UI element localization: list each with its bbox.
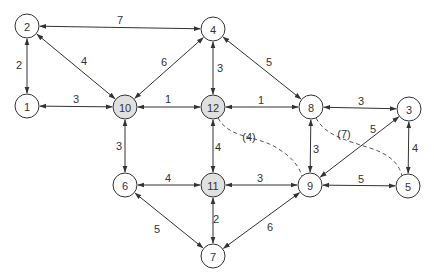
edge-weight-label: 5 (266, 56, 272, 68)
edge-weight-label: 7 (117, 14, 123, 26)
node-label: 7 (210, 251, 216, 263)
node-label: 5 (405, 181, 411, 193)
dashed-edge-weight-label: (7) (337, 128, 350, 140)
node-6: 6 (113, 173, 137, 197)
node-label: 3 (406, 104, 412, 116)
edge-weight-label: 3 (73, 93, 79, 105)
edge-9-7 (223, 193, 299, 249)
node-9: 9 (298, 173, 322, 197)
node-5: 5 (396, 174, 420, 198)
edge-2-4 (40, 26, 200, 29)
edge-weight-label: 5 (358, 173, 364, 185)
edge-weight-label: 1 (165, 93, 171, 105)
node-2: 2 (15, 14, 39, 38)
edge-8-3 (324, 107, 396, 108)
edge-3-9 (320, 117, 398, 177)
edge-weight-label: 4 (412, 142, 418, 154)
edge-6-7 (135, 193, 203, 248)
edge-weight-label: 4 (165, 172, 171, 184)
node-1: 1 (15, 94, 39, 118)
edge-weight-label: 3 (313, 143, 319, 155)
edge-weight-label: 3 (257, 172, 263, 184)
node-label: 4 (210, 24, 216, 36)
edge-3-5 (408, 122, 409, 173)
node-7: 7 (201, 244, 225, 268)
dashed-edge-12-9 (218, 118, 302, 176)
edge-8-9 (310, 120, 311, 172)
node-10: 10 (113, 95, 137, 119)
node-label: 2 (24, 21, 30, 33)
edge-weight-label: 4 (215, 141, 221, 153)
node-3: 3 (397, 97, 421, 121)
edge-weight-label: 1 (258, 94, 264, 106)
node-11: 11 (201, 173, 225, 197)
edge-weight-label: 3 (358, 95, 364, 107)
edge-weight-label: 3 (116, 140, 122, 152)
edge-weight-label: 3 (217, 62, 223, 74)
edge-weight-label: 2 (213, 213, 219, 225)
node-label: 1 (24, 101, 30, 113)
node-12: 12 (201, 95, 225, 119)
node-label: 9 (307, 180, 313, 192)
graph-diagram: 123456789101112 724635311334345435526(4)… (0, 0, 434, 277)
edge-weight-label: 2 (16, 59, 22, 71)
edge-weight-label: 5 (154, 223, 160, 235)
edge-weight-label: 6 (267, 221, 273, 233)
edge-2-10 (37, 34, 115, 98)
edge-labels: 724635311334345435526(4)(7) (16, 14, 418, 235)
edge-4-8 (223, 37, 301, 99)
node-label: 11 (207, 180, 218, 192)
node-4: 4 (201, 17, 225, 41)
edge-1-10 (40, 106, 112, 107)
edge-9-5 (323, 185, 395, 186)
edge-weight-label: 5 (370, 123, 376, 135)
node-label: 6 (122, 180, 128, 192)
node-label: 10 (119, 102, 131, 114)
node-label: 12 (207, 102, 219, 114)
node-label: 8 (308, 102, 314, 114)
edge-4-10 (135, 38, 204, 99)
node-8: 8 (299, 95, 323, 119)
dashed-edge-weight-label: (4) (242, 131, 255, 143)
edge-weight-label: 4 (81, 55, 87, 67)
edge-weight-label: 6 (161, 56, 167, 68)
